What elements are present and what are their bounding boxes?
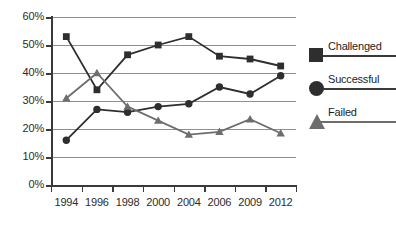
legend-item-successful[interactable]: Successful: [306, 71, 396, 104]
circle-marker-icon: [277, 72, 284, 79]
series-line: [66, 37, 280, 90]
legend-label-failed: Failed: [328, 106, 357, 118]
legend-label-challenged: Challenged: [328, 40, 382, 52]
circle-marker-icon: [93, 106, 100, 113]
square-marker-icon: [155, 42, 162, 49]
square-marker-icon: [309, 48, 323, 62]
y-axis-tick-label: 40%: [23, 66, 44, 78]
square-marker-icon: [124, 51, 131, 58]
legend-item-failed[interactable]: Failed: [306, 104, 396, 137]
y-axis-tick-label: 10%: [23, 150, 44, 162]
x-axis-tick: [174, 186, 175, 192]
circle-marker-icon: [154, 103, 161, 110]
triangle-marker-icon: [309, 114, 325, 129]
x-axis-tick: [296, 186, 297, 192]
circle-marker-icon: [216, 83, 223, 90]
legend-label-successful: Successful: [328, 73, 379, 85]
x-axis-tick: [235, 186, 236, 192]
x-axis-tick: [51, 186, 52, 192]
legend-line-successful: [320, 88, 396, 90]
square-marker-icon: [185, 33, 192, 40]
x-axis-tick: [204, 186, 205, 192]
square-marker-icon: [216, 53, 223, 60]
series-plot: [51, 17, 296, 185]
legend-line-failed: [320, 121, 396, 123]
square-marker-icon: [63, 33, 70, 40]
y-axis-tick-label: 60%: [23, 10, 44, 22]
y-axis-tick-label: 0%: [29, 178, 45, 190]
x-axis-tick-label: 2012: [261, 196, 301, 208]
square-marker-icon: [277, 63, 284, 70]
x-axis-tick: [265, 186, 266, 192]
triangle-marker-icon: [93, 69, 101, 76]
y-axis-tick-label: 50%: [23, 38, 44, 50]
square-marker-icon: [94, 86, 101, 93]
square-marker-icon: [247, 56, 254, 63]
x-axis-tick: [112, 186, 113, 192]
triangle-marker-icon: [246, 115, 254, 122]
circle-marker-icon: [246, 90, 253, 97]
circle-marker-icon: [185, 100, 192, 107]
y-axis-tick-label: 30%: [23, 94, 44, 106]
x-axis-tick: [143, 186, 144, 192]
circle-marker-icon: [63, 137, 70, 144]
series-successful: [63, 72, 285, 144]
series-line: [66, 73, 280, 135]
y-axis-tick-label: 20%: [23, 122, 44, 134]
series-failed: [62, 69, 285, 138]
chart-legend: Challenged Successful Failed: [306, 38, 396, 137]
circle-marker-icon: [309, 81, 324, 96]
chart-root: 0%10%20%30%40%50%60% 1994199619982000200…: [0, 0, 396, 231]
legend-item-challenged[interactable]: Challenged: [306, 38, 396, 71]
legend-line-challenged: [320, 55, 396, 57]
x-axis-tick: [82, 186, 83, 192]
series-challenged: [63, 33, 284, 93]
